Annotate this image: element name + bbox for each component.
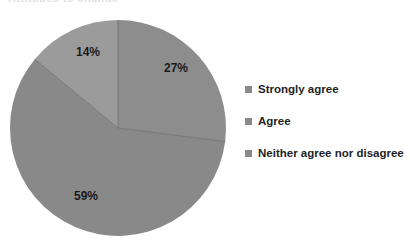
- legend-item-neither-agree-nor-disagree[interactable]: Neither agree nor disagree: [245, 146, 410, 160]
- square-swatch-icon: [245, 118, 252, 125]
- chart-legend: Strongly agree Agree Neither agree nor d…: [245, 82, 410, 160]
- legend-item-label: Strongly agree: [258, 82, 339, 96]
- slice-label-strongly-agree: 27%: [164, 61, 188, 75]
- square-swatch-icon: [245, 86, 252, 93]
- legend-item-agree[interactable]: Agree: [245, 114, 410, 128]
- pie-chart: Attitudes to change 27% 59% 14% Strongly…: [0, 0, 410, 244]
- pie-svg: 27% 59% 14%: [0, 0, 244, 244]
- slice-label-neither: 14%: [76, 45, 100, 59]
- slice-label-agree: 59%: [74, 189, 98, 203]
- square-swatch-icon: [245, 150, 252, 157]
- legend-item-label: Agree: [258, 114, 291, 128]
- pie-plot-area: 27% 59% 14%: [0, 0, 244, 244]
- legend-item-label: Neither agree nor disagree: [258, 146, 404, 160]
- legend-item-strongly-agree[interactable]: Strongly agree: [245, 82, 410, 96]
- pie-slice-strongly-agree[interactable]: [118, 20, 226, 142]
